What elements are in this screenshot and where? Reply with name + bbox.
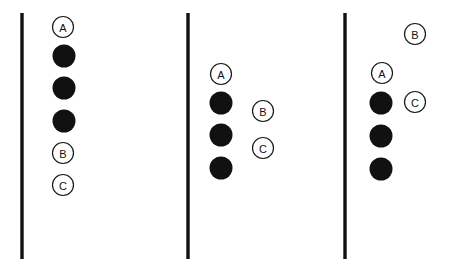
filled-dot-shape: [210, 157, 233, 180]
filled-dot: [53, 77, 76, 100]
diagram-canvas: ABCABCBAC: [0, 0, 449, 276]
labeled-circle-c: C: [253, 138, 274, 159]
labeled-circle-a: A: [372, 63, 393, 84]
filled-dot-shape: [370, 125, 393, 148]
filled-dot-shape: [53, 45, 76, 68]
labeled-circle-c: C: [53, 175, 74, 196]
circle-label: A: [59, 22, 67, 34]
circle-label: C: [259, 143, 267, 155]
circle-label: A: [217, 69, 225, 81]
left-panel: ABC: [22, 13, 76, 259]
filled-dot: [210, 92, 233, 115]
filled-dot: [210, 124, 233, 147]
filled-dot: [53, 45, 76, 68]
labeled-circle-b: B: [405, 24, 426, 45]
filled-dot-shape: [53, 77, 76, 100]
labeled-circle-a: A: [211, 64, 232, 85]
filled-dot-shape: [210, 124, 233, 147]
circle-label: A: [378, 68, 386, 80]
filled-dot: [53, 110, 76, 133]
middle-panel: ABC: [188, 13, 274, 259]
labeled-circle-a: A: [53, 17, 74, 38]
circle-label: C: [411, 97, 419, 109]
filled-dot-shape: [210, 92, 233, 115]
filled-dot: [370, 125, 393, 148]
right-panel: BAC: [345, 13, 426, 259]
circle-label: C: [59, 180, 67, 192]
circle-label: B: [59, 148, 66, 160]
filled-dot: [370, 158, 393, 181]
three-panel-diagram: ABCABCBAC: [0, 0, 449, 276]
filled-dot: [370, 92, 393, 115]
filled-dot-shape: [370, 158, 393, 181]
labeled-circle-b: B: [253, 101, 274, 122]
labeled-circle-b: B: [53, 143, 74, 164]
labeled-circle-c: C: [405, 92, 426, 113]
circle-label: B: [259, 106, 266, 118]
circle-label: B: [411, 29, 418, 41]
filled-dot: [210, 157, 233, 180]
panels-root: ABCABCBAC: [22, 13, 426, 259]
filled-dot-shape: [370, 92, 393, 115]
filled-dot-shape: [53, 110, 76, 133]
